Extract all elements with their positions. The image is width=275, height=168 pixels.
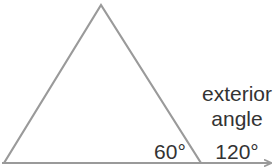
exterior-label-line1: exterior <box>202 82 272 105</box>
interior-angle-label: 60° <box>154 140 186 163</box>
triangle-exterior-angle-diagram: 60° exterior angle 120° <box>0 0 275 168</box>
exterior-angle-label: 120° <box>215 140 258 163</box>
exterior-label-line2: angle <box>211 107 262 130</box>
